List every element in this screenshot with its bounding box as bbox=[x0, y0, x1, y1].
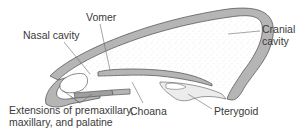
pterygoid-label: Pterygoid bbox=[214, 105, 258, 117]
extensions-label: Extensions of premaxillary, maxillary, a… bbox=[9, 104, 134, 128]
cranial-cavity-label-line2: cavity bbox=[262, 35, 298, 47]
choana-label: Choana bbox=[130, 105, 167, 117]
vomer-label: Vomer bbox=[86, 11, 116, 23]
extensions-label-line2: maxillary, and palatine bbox=[9, 116, 134, 128]
palatal-extension-bar-2 bbox=[112, 89, 130, 95]
choana-leader bbox=[132, 82, 143, 103]
cranial-cavity-label-line1: Cranial bbox=[262, 23, 298, 35]
cranial-cavity-label: Cranial cavity bbox=[262, 23, 298, 47]
nasal-cavity-label: Nasal cavity bbox=[23, 29, 80, 41]
extensions-label-line1: Extensions of premaxillary, bbox=[9, 104, 134, 116]
